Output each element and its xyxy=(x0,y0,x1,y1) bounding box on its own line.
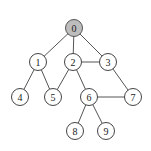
node-9: 9 xyxy=(98,123,115,140)
node-label: 8 xyxy=(73,126,78,137)
node-label: 1 xyxy=(36,57,41,68)
node-label: 2 xyxy=(71,57,76,68)
node-1: 1 xyxy=(30,54,47,71)
node-7: 7 xyxy=(125,89,142,106)
node-3: 3 xyxy=(100,54,117,71)
edges-group xyxy=(20,28,133,131)
node-5: 5 xyxy=(45,89,62,106)
node-label: 5 xyxy=(51,92,56,103)
node-label: 4 xyxy=(18,92,23,103)
node-label: 3 xyxy=(106,57,111,68)
graph-diagram: 0123456789 xyxy=(0,0,151,151)
node-2: 2 xyxy=(65,54,82,71)
node-label: 6 xyxy=(87,92,92,103)
nodes-group: 0123456789 xyxy=(12,20,142,140)
node-label: 9 xyxy=(104,126,109,137)
node-8: 8 xyxy=(67,123,84,140)
node-label: 0 xyxy=(72,23,77,34)
node-0: 0 xyxy=(66,20,83,37)
node-label: 7 xyxy=(131,92,136,103)
node-6: 6 xyxy=(81,89,98,106)
node-4: 4 xyxy=(12,89,29,106)
